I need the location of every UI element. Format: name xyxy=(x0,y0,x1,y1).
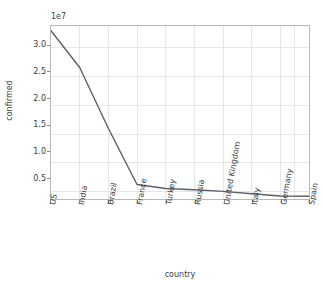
x-tick-label: Spain xyxy=(307,182,320,206)
x-axis-title: country xyxy=(50,270,310,279)
x-tick-label: Turkey xyxy=(164,178,177,205)
x-axis-tick-labels: US India Brazil France Turkey Russia Uni… xyxy=(0,0,323,299)
figure-canvas: 1e7 3.0 2.5 2.0 1.5 1.0 0.5 confirmed xyxy=(0,0,323,299)
x-tick-label: United Kingdom xyxy=(222,141,242,206)
x-tick-label: Italy xyxy=(250,187,262,206)
x-tick-label: US xyxy=(48,193,59,205)
x-tick-label: France xyxy=(135,178,148,206)
x-tick-label: Brazil xyxy=(106,182,119,206)
x-tick-label: Russia xyxy=(193,179,206,206)
x-tick-label: Germany xyxy=(279,168,294,206)
x-tick-label: India xyxy=(77,185,89,206)
